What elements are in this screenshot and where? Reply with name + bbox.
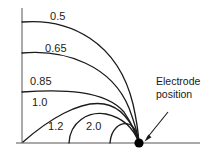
contour-label-0-65: 0.65 [45, 43, 67, 54]
electrode-annotation-line1: Electrode [156, 75, 200, 87]
annotation-arrow [145, 112, 169, 142]
electrode-position-marker [134, 138, 143, 147]
contour-label-0-5: 0.5 [50, 11, 66, 22]
contour-label-2-0: 2.0 [86, 121, 102, 132]
contour-label-1-2: 1.2 [48, 121, 64, 132]
contour-label-0-85: 0.85 [30, 76, 52, 87]
electrode-contour-figure: 0.5 0.65 0.85 1.0 1.2 2.0 Electrode posi… [0, 0, 210, 154]
contour-label-1-0: 1.0 [32, 97, 48, 108]
electrode-annotation-line2: position [156, 88, 192, 100]
